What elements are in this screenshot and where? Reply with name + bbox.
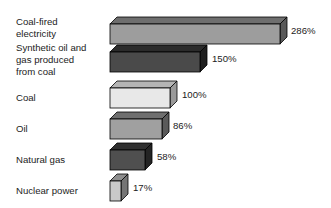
chart-canvas: Coal-fired electricity 286% Synthetic oi…	[0, 0, 331, 208]
bar-group-3	[110, 81, 177, 108]
bar-label-1-line-1: Coal-fired	[16, 16, 58, 27]
bar-chart: Coal-fired electricity 286% Synthetic oi…	[0, 0, 331, 208]
bar-front-face-3	[110, 88, 170, 108]
bar-group-1	[110, 17, 287, 44]
bar-group-2	[110, 45, 207, 72]
bar-top-face-1	[110, 17, 287, 24]
bar-label-2-line-3: from coal	[16, 66, 55, 77]
bar-front-face-6	[110, 181, 121, 201]
bar-group-5	[110, 143, 152, 170]
bar-value-6: 17%	[133, 182, 153, 193]
bar-label-1-line-2: electricity	[16, 28, 56, 39]
bar-label-5: Natural gas	[16, 154, 65, 165]
bar-front-face-4	[110, 119, 162, 139]
bar-value-4: 86%	[173, 120, 193, 131]
bar-value-1: 286%	[291, 25, 316, 36]
bar-front-face-2	[110, 52, 200, 72]
bar-value-3: 100%	[182, 89, 207, 100]
bar-front-face-5	[110, 150, 145, 170]
bar-group-6	[110, 174, 128, 201]
bar-top-face-2	[110, 45, 207, 52]
bar-group-4	[110, 112, 169, 139]
bar-label-4: Oil	[16, 123, 28, 134]
bar-top-face-4	[110, 112, 169, 119]
bar-label-2-line-1: Synthetic oil and	[16, 42, 86, 53]
bar-label-6: Nuclear power	[16, 185, 79, 196]
bar-top-face-3	[110, 81, 177, 88]
bar-front-face-1	[110, 24, 280, 44]
bar-label-2-line-2: gas produced	[16, 54, 74, 65]
bar-value-2: 150%	[212, 53, 237, 64]
bar-value-5: 58%	[157, 151, 177, 162]
bar-label-3: Coal	[16, 92, 36, 103]
